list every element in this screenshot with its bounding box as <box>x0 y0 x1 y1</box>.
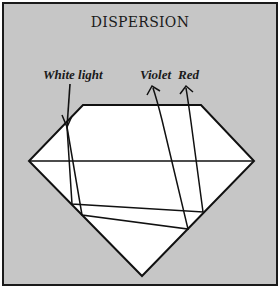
diagram-title: DISPERSION <box>0 14 280 30</box>
label-white-light: White light <box>43 67 103 83</box>
dispersion-diagram <box>0 0 280 286</box>
label-red: Red <box>178 67 199 83</box>
diamond-shape <box>29 105 254 276</box>
white-light-ray <box>62 84 72 127</box>
label-violet: Violet <box>140 67 171 83</box>
